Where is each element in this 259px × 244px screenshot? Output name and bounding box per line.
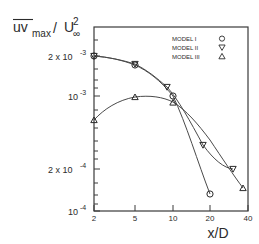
y-tick-label-2e-4: 2 x 10 -4 (48, 162, 86, 175)
y-tick-label-exponent: -4 (80, 204, 86, 211)
y-label-max-sub: max (32, 28, 51, 39)
x-axis-ticks (94, 205, 248, 211)
y-tick-label-exponent: -3 (80, 89, 86, 96)
y-tick-label-mantissa: 10 (68, 92, 78, 102)
series-model-2-line (94, 56, 233, 169)
y-axis-ticks (94, 40, 100, 211)
legend-marker-triangle-down-icon (219, 45, 225, 50)
x-tick-label-10: 10 (169, 214, 178, 223)
legend: MODEL I MODEL II MODEL III (172, 36, 225, 60)
y-tick-label-mantissa: 2 x 10 (48, 165, 73, 175)
y-tick-label-2e-3: 2 x 10 -3 (48, 49, 86, 62)
y-tick-label-1e-3: 10 -3 (68, 89, 86, 102)
x-tick-labels: 2 5 10 20 40 (92, 214, 253, 223)
y-tick-labels: 2 x 10 -3 10 -3 2 x 10 -4 10 -4 (48, 49, 86, 217)
plot-border (94, 27, 248, 211)
series-model-3 (91, 94, 246, 191)
x-tick-label-20: 20 (206, 214, 215, 223)
y-label-uv: uv (13, 19, 28, 35)
y-label-exponent: 2 (73, 16, 79, 27)
y-label-slash: / (53, 20, 57, 36)
series-model-2 (91, 53, 236, 172)
legend-label-model-3: MODEL III (172, 54, 200, 60)
y-tick-label-exponent: -3 (80, 49, 86, 56)
x-tick-label-5: 5 (133, 214, 138, 223)
series-model-1-line (94, 56, 210, 194)
x-axis-label: x/D (208, 225, 229, 241)
y-tick-label-mantissa: 10 (68, 207, 78, 217)
y-tick-label-mantissa: 2 x 10 (48, 52, 73, 62)
y-label-infinity-sub: ∞ (73, 28, 80, 39)
x-tick-label-2: 2 (92, 214, 97, 223)
series-model-3-line (94, 96, 243, 188)
plot-frame (94, 27, 248, 211)
chart-figure: uv max / U ∞ 2 (0, 0, 259, 244)
y-tick-label-1e-4: 10 -4 (68, 204, 86, 217)
y-tick-label-exponent: -4 (80, 162, 86, 169)
chart-canvas: uv max / U ∞ 2 (0, 0, 259, 244)
legend-label-model-2: MODEL II (172, 45, 198, 51)
legend-marker-circle-icon (219, 36, 224, 41)
x-tick-label-40: 40 (244, 214, 253, 223)
legend-label-model-1: MODEL I (172, 36, 197, 42)
y-axis-label: uv max / U ∞ 2 (13, 16, 80, 39)
legend-marker-triangle-up-icon (219, 53, 225, 58)
